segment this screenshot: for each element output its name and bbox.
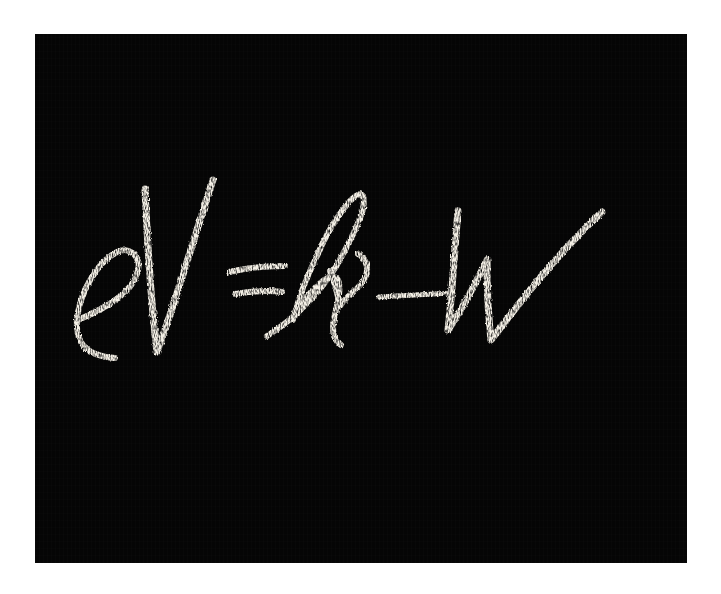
chalkboard: eV = hν − W xyxy=(35,34,687,563)
chalk-formula xyxy=(35,34,687,563)
letter-v xyxy=(145,180,213,352)
letter-w xyxy=(448,211,602,340)
equals-bottom xyxy=(235,291,282,294)
letter-h xyxy=(267,194,364,345)
letter-e xyxy=(77,250,139,358)
minus-sign xyxy=(379,293,453,297)
equals-top xyxy=(229,266,285,272)
